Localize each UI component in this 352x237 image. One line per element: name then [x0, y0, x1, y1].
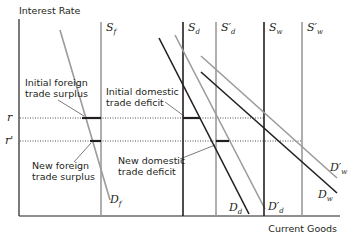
initial-foreign-surplus-label: Initial foreign trade surplus [25, 77, 91, 99]
initial-domestic-leader [165, 102, 184, 116]
domestic-demand-label: Dd [228, 201, 243, 216]
world-demand-curve [201, 72, 337, 193]
world-supply-prime-label: S′w [307, 21, 323, 36]
y-axis-label: Interest Rate [19, 5, 81, 16]
domestic-demand-prime-label: D′d [267, 200, 284, 215]
initial-foreign-leader [58, 100, 84, 116]
rate-label-r-prime: r' [5, 134, 13, 147]
foreign-demand-label: Df [109, 193, 123, 208]
world-interest-rate-diagram: Interest Rate Current Goods r r' Sf Df S… [0, 0, 352, 237]
rate-label-r: r [7, 111, 13, 124]
foreign-supply-label: Sf [106, 21, 118, 36]
new-foreign-surplus-label: New foreign trade surplus [32, 160, 95, 182]
domestic-demand-prime-curve [175, 35, 265, 209]
domestic-supply-prime-label: S′d [221, 21, 236, 36]
world-demand-label: Dw [317, 188, 333, 203]
x-axis-label: Current Goods [268, 223, 337, 234]
new-domestic-deficit-label: New domestic trade deficit [118, 155, 188, 177]
world-supply-label: Sw [269, 21, 283, 36]
initial-domestic-deficit-label: Initial domestic trade deficit [106, 86, 182, 108]
domestic-demand-curve [159, 38, 249, 214]
world-demand-prime-label: D′w [329, 161, 347, 176]
new-domestic-leader [180, 145, 215, 159]
domestic-supply-label: Sd [188, 21, 201, 36]
